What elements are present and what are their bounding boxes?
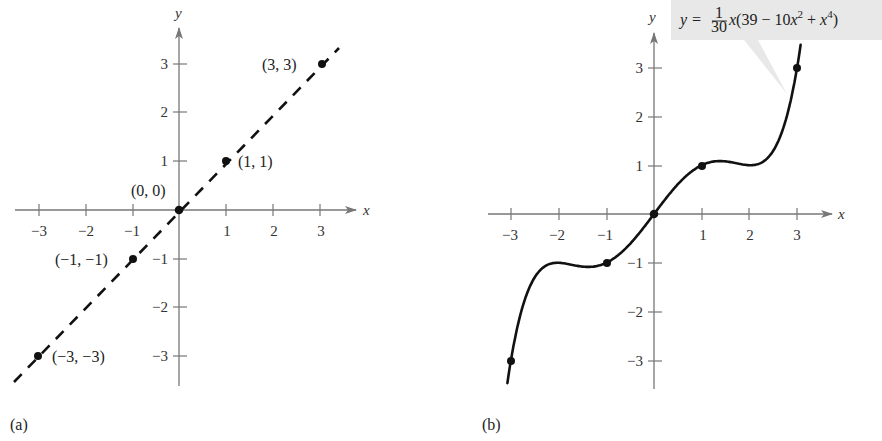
svg-text:2: 2	[161, 104, 169, 120]
y-axis-label: y	[647, 9, 656, 25]
x-tick-labels: −3 −2 −1 1 2 3	[502, 227, 801, 243]
svg-text:3: 3	[317, 223, 325, 239]
point-3-3	[318, 60, 326, 68]
figure-canvas: x y −3 −2 −1 1 2 3 3	[0, 0, 882, 441]
point-0-0	[650, 210, 659, 219]
point-1-1	[698, 162, 706, 170]
y-axis-label: y	[173, 5, 182, 21]
point-neg3-neg3	[507, 357, 515, 365]
panel-label-b: (b)	[482, 416, 501, 434]
svg-text:3: 3	[793, 227, 801, 243]
svg-text:2: 2	[746, 227, 754, 243]
dashed-line-y-equals-x	[14, 48, 339, 382]
point-label-1-1: (1, 1)	[238, 153, 273, 171]
svg-text:−1: −1	[597, 227, 613, 243]
point-0-0	[175, 206, 184, 215]
point-neg1-neg1	[603, 259, 611, 267]
panel-b: y = 1 30 x(39 − 10x2 + x4) x y −3 −2 −1	[482, 0, 882, 434]
svg-text:−3: −3	[31, 223, 47, 239]
svg-text:−3: −3	[502, 227, 518, 243]
point-neg1-neg1	[129, 255, 137, 263]
panel-a: x y −3 −2 −1 1 2 3 3	[10, 5, 370, 434]
svg-text:−2: −2	[549, 227, 565, 243]
svg-text:−2: −2	[78, 223, 94, 239]
equation-text: y =	[678, 11, 702, 29]
point-label-3-3: (3, 3)	[262, 56, 297, 74]
point-1-1	[222, 157, 230, 165]
x-axis-label: x	[837, 206, 845, 222]
svg-text:−2: −2	[152, 299, 168, 315]
point-neg3-neg3	[34, 352, 42, 360]
x-tick-labels: −3 −2 −1 1 2 3	[31, 223, 325, 239]
svg-text:2: 2	[636, 109, 644, 125]
svg-text:2: 2	[270, 223, 278, 239]
svg-text:−3: −3	[152, 348, 168, 364]
panel-label-a: (a)	[10, 416, 28, 434]
equation-rhs: x(39 − 10x2 + x4)	[728, 8, 838, 29]
svg-text:1: 1	[699, 227, 707, 243]
point-label-0-0: (0, 0)	[131, 182, 166, 200]
equation-callout: y = 1 30 x(39 − 10x2 + x4)	[671, 0, 882, 94]
fraction-denominator: 30	[711, 18, 727, 35]
svg-text:−3: −3	[627, 353, 643, 369]
point-label-neg3-neg3: (−3, −3)	[52, 348, 105, 366]
svg-text:−2: −2	[627, 304, 643, 320]
x-axis-label: x	[362, 202, 370, 218]
svg-text:1: 1	[161, 153, 169, 169]
point-label-neg1-neg1: (−1, −1)	[55, 251, 108, 269]
svg-text:3: 3	[161, 56, 169, 72]
svg-text:−1: −1	[124, 223, 140, 239]
svg-text:1: 1	[223, 223, 231, 239]
svg-text:−1: −1	[627, 255, 643, 271]
svg-text:3: 3	[636, 60, 644, 76]
svg-text:1: 1	[636, 158, 644, 174]
point-3-3	[793, 64, 801, 72]
svg-text:−1: −1	[152, 251, 168, 267]
